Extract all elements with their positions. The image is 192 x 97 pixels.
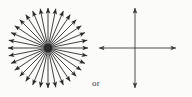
burst-ray bbox=[48, 20, 76, 48]
burst-ray bbox=[20, 48, 48, 76]
point-charge-dot bbox=[44, 44, 52, 52]
double-headed-cross bbox=[99, 8, 176, 88]
point-source-dot bbox=[44, 44, 52, 52]
burst-ray bbox=[20, 20, 48, 48]
burst-ray bbox=[48, 48, 76, 76]
vector-field-figure: or bbox=[0, 0, 192, 97]
or-label: or bbox=[92, 79, 100, 88]
